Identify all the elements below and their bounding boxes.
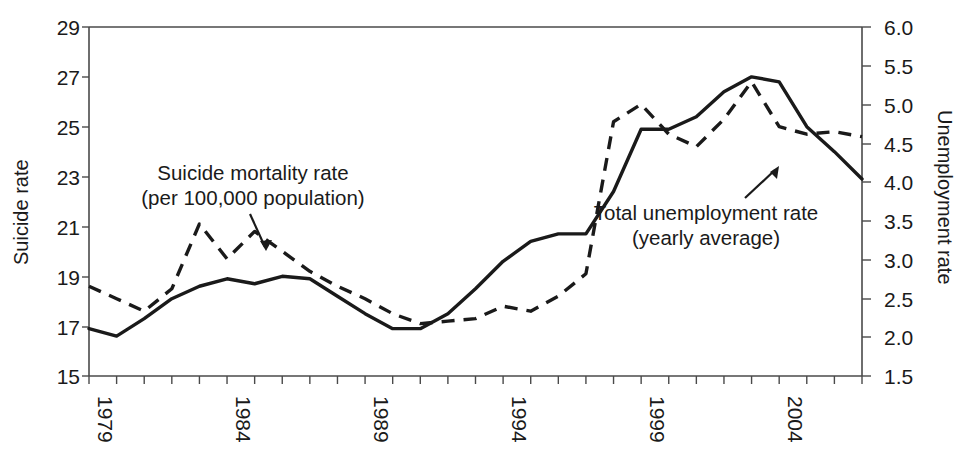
dual-axis-line-chart: Suicide rate Unemployment rate 29 27 25 … xyxy=(0,0,956,461)
right-tick-5-5: 5.5 xyxy=(884,55,913,78)
right-tick-1-5: 1.5 xyxy=(884,365,913,388)
right-tick-2-0: 2.0 xyxy=(884,326,913,349)
x-tick-1989: 1989 xyxy=(370,396,393,443)
right-axis-title: Unemployment rate xyxy=(934,110,956,285)
left-tick-25: 25 xyxy=(57,116,80,139)
left-tick-19: 19 xyxy=(57,266,80,289)
chart-figure: Suicide rate Unemployment rate 29 27 25 … xyxy=(0,0,956,461)
right-tick-4-5: 4.5 xyxy=(884,133,913,156)
left-tick-21: 21 xyxy=(57,216,80,239)
left-tick-17: 17 xyxy=(57,316,80,339)
x-tick-1999: 1999 xyxy=(646,396,669,443)
right-tick-4-0: 4.0 xyxy=(884,171,913,194)
chart-background xyxy=(0,0,956,461)
x-tick-2004: 2004 xyxy=(784,396,807,443)
right-tick-6-0: 6.0 xyxy=(884,16,913,39)
right-tick-2-5: 2.5 xyxy=(884,288,913,311)
right-tick-5-0: 5.0 xyxy=(884,94,913,117)
suicide-annotation-line2: (per 100,000 population) xyxy=(141,186,364,209)
left-tick-23: 23 xyxy=(57,166,80,189)
left-tick-27: 27 xyxy=(57,66,80,89)
right-tick-3-5: 3.5 xyxy=(884,210,913,233)
suicide-annotation-line1: Suicide mortality rate xyxy=(157,161,348,184)
left-tick-15: 15 xyxy=(57,365,80,388)
x-tick-1979: 1979 xyxy=(94,396,117,443)
left-tick-29: 29 xyxy=(57,16,80,39)
unemployment-annotation-line1: Total unemployment rate xyxy=(594,201,818,224)
x-tick-1984: 1984 xyxy=(232,396,255,443)
unemployment-annotation-line2: (yearly average) xyxy=(632,226,780,249)
left-axis-title: Suicide rate xyxy=(10,159,32,265)
right-tick-3-0: 3.0 xyxy=(884,249,913,272)
x-tick-1994: 1994 xyxy=(508,396,531,443)
